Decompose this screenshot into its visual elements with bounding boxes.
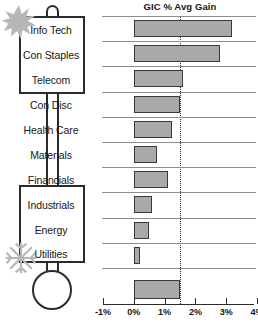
gridline: [102, 192, 256, 193]
sector-label-utilities: Utilities: [0, 249, 102, 260]
sector-label-health-care: Health Care: [0, 125, 102, 136]
axis-tick-label: 4%: [250, 307, 258, 317]
axis-tick: [134, 298, 135, 304]
axis-reference-tick: [180, 299, 181, 304]
plot-area: [102, 16, 258, 298]
axis-tick-label: 1%: [158, 307, 171, 317]
bar: [134, 171, 168, 188]
axis-line: [103, 304, 254, 305]
gridline: [102, 16, 256, 17]
gridline: [102, 117, 256, 118]
bar: [134, 70, 183, 87]
gridline: [102, 243, 256, 244]
bar: [134, 20, 233, 37]
sector-label-materials: Materials: [0, 150, 102, 161]
bar: [134, 146, 157, 163]
axis-tick: [165, 298, 166, 304]
axis-tick-label: 0%: [127, 307, 140, 317]
x-axis: -1%0%1%2%3%4%: [102, 298, 258, 334]
chart-title: GIC % Avg Gain: [102, 1, 258, 12]
bar: [134, 121, 173, 138]
sector-label-info-tech: Info Tech: [0, 25, 102, 36]
thermometer-graphic: Info Tech Con Staples Telecom Con Disc H…: [0, 0, 102, 334]
axis-tick-label: 3%: [220, 307, 233, 317]
sector-label-telecom: Telecom: [0, 75, 102, 86]
gridline: [102, 218, 256, 219]
bar: [134, 222, 149, 239]
bar: [134, 247, 140, 264]
axis-tick-label: 2%: [189, 307, 202, 317]
summary-bar: [134, 280, 180, 299]
axis-tick: [195, 298, 196, 304]
axis-tick-label: -1%: [95, 307, 111, 317]
sector-label-industrials: Industrials: [0, 200, 102, 211]
bar: [134, 45, 220, 62]
axis-tick: [103, 298, 104, 304]
sector-label-con-disc: Con Disc: [0, 100, 102, 111]
thermometer-bulb: [32, 270, 72, 310]
axis-tick: [257, 298, 258, 304]
gridline: [102, 167, 256, 168]
gridline: [102, 41, 256, 42]
gridline: [102, 92, 256, 93]
sector-label-con-staples: Con Staples: [0, 50, 102, 61]
sector-label-financials: Financials: [0, 175, 102, 186]
bar: [134, 96, 180, 113]
bar-chart: GIC % Avg Gain -1%0%1%2%3%4%: [102, 0, 258, 334]
axis-tick: [226, 298, 227, 304]
gridline: [102, 268, 256, 269]
sector-label-energy: Energy: [0, 225, 102, 236]
gridline: [102, 66, 256, 67]
bar: [134, 196, 152, 213]
gridline: [102, 142, 256, 143]
